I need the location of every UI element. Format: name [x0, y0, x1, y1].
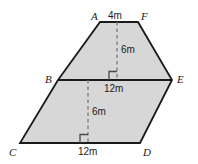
lower-height-measure: 6m: [92, 107, 106, 117]
bottom-edge-measure: 12m: [78, 147, 97, 157]
vertex-label-b: B: [45, 74, 52, 85]
top-edge-measure: 4m: [108, 11, 122, 21]
composite-polygon: [20, 22, 172, 143]
vertex-label-c: C: [9, 147, 16, 158]
vertex-label-f: F: [141, 11, 148, 22]
vertex-label-e: E: [177, 74, 184, 85]
vertex-label-a: A: [91, 11, 98, 22]
upper-height-measure: 6m: [121, 45, 135, 55]
geometry-figure: A F E D C B 4m 6m 12m 6m 12m: [0, 0, 198, 164]
middle-edge-measure: 12m: [104, 84, 123, 94]
figure-canvas: [0, 0, 198, 164]
vertex-label-d: D: [143, 147, 151, 158]
